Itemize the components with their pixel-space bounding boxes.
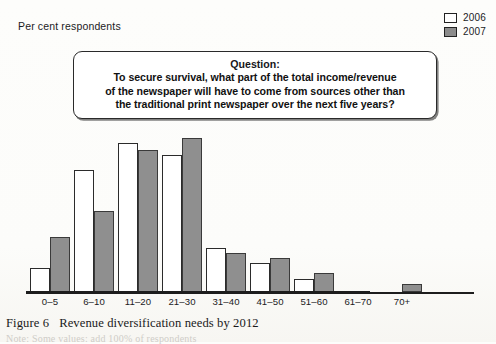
question-line-3: the traditional print newspaper over the… [82,98,428,112]
legend-item-2006: 2006 [444,12,486,23]
question-line-2: of the newspaper will have to come from … [82,85,428,99]
figure-note: Note: Some values: add 100% of responden… [6,333,197,344]
legend-label-2007: 2007 [463,26,486,37]
question-title: Question: [82,57,428,71]
figure-title: Revenue diversification needs by 2012 [59,316,259,330]
legend-swatch-gray-icon [444,27,457,37]
question-callout-box: Question: To secure survival, what part … [73,51,437,119]
chart-legend: 2006 2007 [444,12,486,37]
figure-number: Figure 6 [6,316,49,330]
legend-label-2006: 2006 [463,12,486,23]
question-line-1: To secure survival, what part of the tot… [82,71,428,85]
legend-swatch-white-icon [444,13,457,23]
y-axis-label: Per cent respondents [18,20,121,32]
figure-caption: Figure 6Revenue diversification needs by… [6,316,259,331]
legend-item-2007: 2007 [444,26,486,37]
